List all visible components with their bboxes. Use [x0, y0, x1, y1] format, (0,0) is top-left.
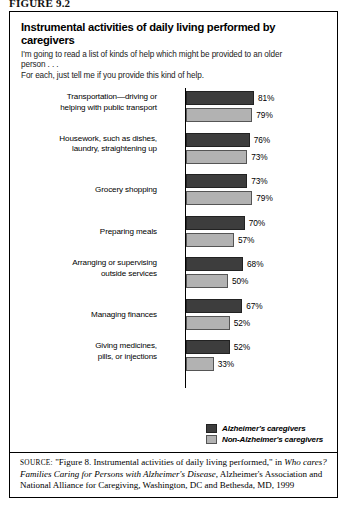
bar-value-label: 73%: [251, 152, 267, 162]
category-label: Managing finances: [5, 310, 157, 320]
source-divider: [10, 452, 337, 453]
bar-nonalz: [186, 108, 252, 122]
bar-value-label: 68%: [247, 259, 263, 269]
category-label-line: Housework, such as dishes,: [5, 134, 157, 144]
chart-header: Instrumental activities of daily living …: [10, 12, 337, 81]
category-label-line: Grocery shopping: [5, 185, 157, 195]
bar-group: Grocery shopping73%79%: [10, 171, 337, 213]
chart-title: Instrumental activities of daily living …: [21, 21, 326, 47]
category-label-line: pills, or injections: [5, 352, 157, 362]
figure-number: FIGURE 9.2: [9, 0, 70, 9]
bar-alz: [186, 91, 254, 105]
bar-group: Housework, such as dishes,laundry, strai…: [10, 130, 337, 172]
bar-group: Giving medicines,pills, or injections52%…: [10, 337, 337, 379]
legend-item-non-alzheimers: Non-Alzheimer's caregivers: [206, 435, 323, 444]
bar-nonalz: [186, 274, 228, 288]
legend-swatch-icon-alzheimers: [206, 424, 217, 433]
bar-group: Preparing meals70%57%: [10, 213, 337, 255]
bar-value-label: 79%: [256, 110, 272, 120]
category-label-line: Giving medicines,: [5, 341, 157, 351]
bar-chart-plot: Transportation—driving orhelping with pu…: [10, 88, 337, 400]
bar-group: Transportation—driving orhelping with pu…: [10, 88, 337, 130]
legend-item-alzheimers: Alzheimer's caregivers: [206, 424, 323, 433]
bar-alz: [186, 299, 242, 313]
bar-value-label: 79%: [256, 193, 272, 203]
bar-alz: [186, 133, 250, 147]
legend-swatch-icon-non-alzheimers: [206, 435, 217, 444]
bar-nonalz: [186, 150, 247, 164]
category-label: Transportation—driving orhelping with pu…: [5, 92, 157, 113]
category-label-line: Transportation—driving or: [5, 92, 157, 102]
bar-alz: [186, 257, 243, 271]
bar-value-label: 57%: [238, 235, 254, 245]
legend-label-non-alzheimers: Non-Alzheimer's caregivers: [222, 435, 323, 444]
category-label-line: Arranging or supervising: [5, 258, 157, 268]
bar-group: Managing finances67%52%: [10, 296, 337, 338]
category-label: Giving medicines,pills, or injections: [5, 341, 157, 362]
bar-value-label: 50%: [232, 276, 248, 286]
source-note: SOURCE: "Figure 8. Instrumental activiti…: [20, 457, 328, 492]
bar-value-label: 70%: [249, 218, 265, 228]
bar-value-label: 33%: [218, 359, 234, 369]
category-label-line: laundry, straightening up: [5, 144, 157, 154]
category-label-line: helping with public transport: [5, 103, 157, 113]
chart-subtitle-line-3: For each, just tell me if you provide th…: [21, 71, 326, 81]
figure-container: Instrumental activities of daily living …: [9, 11, 338, 498]
category-label: Housework, such as dishes,laundry, strai…: [5, 134, 157, 155]
category-label-line: Managing finances: [5, 310, 157, 320]
bar-alz: [186, 216, 245, 230]
category-label: Preparing meals: [5, 227, 157, 237]
category-label-line: Preparing meals: [5, 227, 157, 237]
bar-group: Arranging or supervisingoutside services…: [10, 254, 337, 296]
bar-value-label: 52%: [234, 342, 250, 352]
bar-nonalz: [186, 357, 214, 371]
bar-value-label: 81%: [258, 93, 274, 103]
bar-groups: Transportation—driving orhelping with pu…: [10, 88, 337, 379]
chart-subtitle-line-2: person . . .: [21, 60, 326, 70]
source-keyword: SOURCE:: [20, 458, 53, 467]
category-label: Arranging or supervisingoutside services: [5, 258, 157, 279]
category-label-line: outside services: [5, 269, 157, 279]
bar-value-label: 67%: [246, 301, 262, 311]
category-label: Grocery shopping: [5, 185, 157, 195]
bar-nonalz: [186, 316, 230, 330]
bar-nonalz: [186, 191, 252, 205]
chart-legend: Alzheimer's caregivers Non-Alzheimer's c…: [206, 424, 323, 446]
bar-value-label: 76%: [254, 135, 270, 145]
bar-alz: [186, 174, 247, 188]
legend-label-alzheimers: Alzheimer's caregivers: [222, 424, 306, 433]
chart-subtitle-line-1: I'm going to read a list of kinds of hel…: [21, 50, 326, 60]
bar-value-label: 52%: [234, 318, 250, 328]
bar-alz: [186, 340, 230, 354]
source-text-before: "Figure 8. Instrumental activities of da…: [53, 457, 284, 467]
bar-value-label: 73%: [251, 176, 267, 186]
bar-nonalz: [186, 233, 234, 247]
